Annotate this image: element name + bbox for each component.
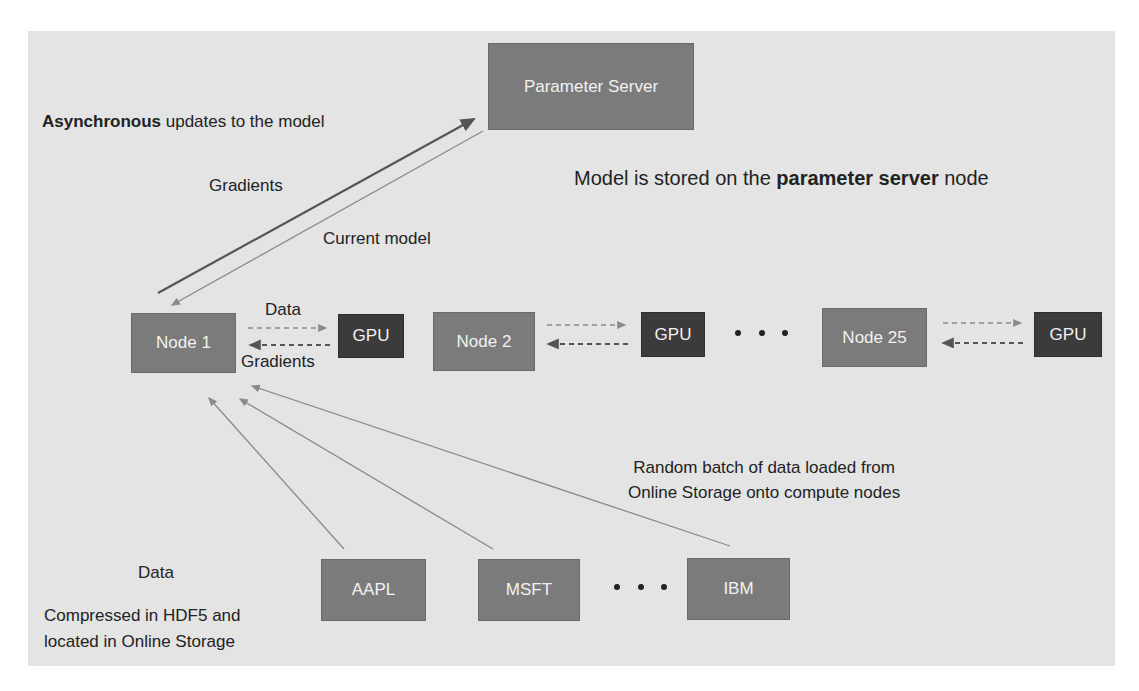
data-store-aapl: AAPL <box>321 559 426 621</box>
gradients-from-gpu-label: Gradients <box>241 352 315 372</box>
compute-node-2: Node 2 <box>433 312 535 371</box>
gpu-1: GPU <box>338 314 404 358</box>
current-model-label: Current model <box>323 229 431 249</box>
storage-description-label: Compressed in HDF5 and located in Online… <box>44 603 241 655</box>
async-updates-label: Asynchronous updates to the model <box>42 112 325 132</box>
gradients-up-label: Gradients <box>209 176 283 196</box>
random-batch-label: Random batch of data loaded from Online … <box>628 455 900 505</box>
data-title-label: Data <box>138 563 174 583</box>
model-stored-label: Model is stored on the parameter server … <box>574 167 989 190</box>
data-store-ibm: IBM <box>687 558 790 620</box>
data-to-gpu-label: Data <box>265 300 301 320</box>
ellipsis-dot <box>661 584 667 590</box>
ellipsis-dot <box>782 330 788 336</box>
data-store-msft: MSFT <box>478 559 580 621</box>
ellipsis-dot <box>735 330 741 336</box>
ellipsis-dot <box>759 330 765 336</box>
ellipsis-dot <box>614 584 620 590</box>
gpu-25: GPU <box>1034 312 1102 357</box>
gpu-2: GPU <box>641 312 705 357</box>
parameter-server-label: Parameter Server <box>524 77 658 97</box>
ellipsis-dot <box>638 584 644 590</box>
compute-node-25: Node 25 <box>822 308 927 367</box>
parameter-server-box: Parameter Server <box>488 43 694 130</box>
compute-node-1: Node 1 <box>131 313 236 373</box>
